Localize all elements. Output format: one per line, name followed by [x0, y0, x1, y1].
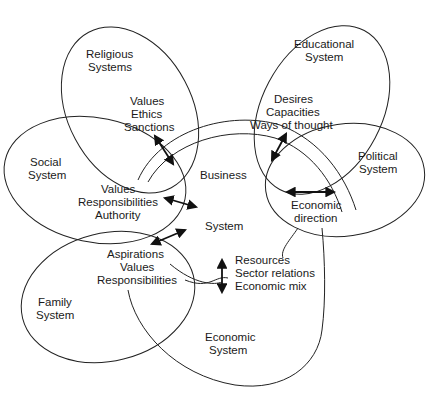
economic-item: Resources: [235, 254, 290, 266]
educational-title: Educational: [294, 38, 354, 50]
economic-item: Economic mix: [235, 280, 307, 292]
family-business-arrow: [152, 230, 185, 244]
educational-item: Desires: [274, 93, 313, 105]
political-item: direction: [294, 212, 337, 224]
political-title-2: System: [359, 163, 397, 175]
social-item: Authority: [95, 209, 141, 221]
religious-item: Ethics: [131, 108, 163, 120]
family-title: Family: [38, 296, 72, 308]
educational-title-2: System: [305, 51, 343, 63]
economic-item: Sector relations: [235, 267, 315, 279]
religious-item: Sanctions: [124, 121, 175, 133]
business-label: Business: [200, 169, 247, 181]
political-title: Political: [358, 150, 398, 162]
religious-title-2: Systems: [88, 61, 132, 73]
educational-item: Ways of thought: [250, 119, 333, 131]
educational-system-ellipse: [227, 2, 417, 217]
religious-business-arrow: [155, 136, 173, 164]
economic-title-2: System: [209, 344, 247, 356]
religious-title: Religious: [86, 48, 134, 60]
social-title-2: System: [28, 169, 66, 181]
family-item: Aspirations: [107, 248, 164, 260]
social-title: Social: [30, 156, 61, 168]
educational-item: Capacities: [266, 106, 320, 118]
social-business-arrow: [165, 198, 196, 207]
economic-title: Economic: [205, 331, 256, 343]
system-label: System: [205, 220, 243, 232]
political-system-ellipse: [258, 113, 432, 246]
political-item: Economic: [291, 199, 342, 211]
family-title-2: System: [36, 309, 74, 321]
social-item: Values: [101, 183, 136, 195]
religious-item: Values: [130, 95, 165, 107]
business-system-diagram: Business System Religious Systems Values…: [0, 0, 441, 404]
social-item: Responsibilities: [78, 196, 158, 208]
family-item: Responsibilities: [97, 274, 177, 286]
family-item: Values: [120, 261, 155, 273]
